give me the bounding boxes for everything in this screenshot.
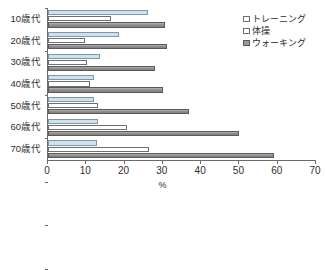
x-axis-tick <box>200 160 201 164</box>
x-axis-line <box>47 160 315 161</box>
y-axis-label: 50歳代 <box>0 101 41 111</box>
x-axis-tick-label: 20 <box>111 165 137 176</box>
y-axis-tick <box>45 225 49 226</box>
legend-label-gymnastics: 体操 <box>252 26 270 36</box>
bar-walking <box>48 131 239 136</box>
bar-group <box>48 73 315 95</box>
bar-walking <box>48 153 274 158</box>
bar-training <box>48 32 119 37</box>
bar-walking <box>48 87 163 92</box>
x-axis-tick <box>124 160 125 164</box>
bar-group <box>48 51 315 73</box>
x-axis-tick-label: 30 <box>149 165 175 176</box>
y-axis-category-labels: 10歳代20歳代30歳代40歳代50歳代60歳代70歳代 <box>0 8 44 160</box>
chart-legend: トレーニング 体操 ウォーキング <box>243 13 306 49</box>
legend-item-training: トレーニング <box>243 13 306 25</box>
y-axis-label: 20歳代 <box>0 36 41 46</box>
bar-gymnastics <box>48 147 149 152</box>
bar-training <box>48 119 98 124</box>
bar-group <box>48 138 315 160</box>
x-axis-tick-label: 60 <box>264 165 290 176</box>
legend-item-gymnastics: 体操 <box>243 25 306 37</box>
legend-item-walking: ウォーキング <box>243 37 306 49</box>
bar-group <box>48 117 315 139</box>
x-axis-tick-label: 40 <box>187 165 213 176</box>
legend-label-training: トレーニング <box>252 14 306 24</box>
bar-walking <box>48 22 165 27</box>
bar-group <box>48 95 315 117</box>
x-axis-tick <box>47 160 48 164</box>
y-axis-label: 10歳代 <box>0 14 41 24</box>
bar-gymnastics <box>48 125 127 130</box>
bar-walking <box>48 109 189 114</box>
x-axis-tick <box>238 160 239 164</box>
bar-training <box>48 10 148 15</box>
y-axis-tick <box>45 8 49 9</box>
bar-training <box>48 140 97 145</box>
x-axis-tick-label: 50 <box>225 165 251 176</box>
legend-swatch-walking-icon <box>243 40 250 47</box>
legend-label-walking: ウォーキング <box>252 38 306 48</box>
y-axis-label: 30歳代 <box>0 57 41 67</box>
bar-walking <box>48 44 167 49</box>
y-axis-label: 70歳代 <box>0 144 41 154</box>
x-axis-tick <box>315 160 316 164</box>
legend-swatch-gymnastics-icon <box>243 28 250 35</box>
y-axis-label: 60歳代 <box>0 122 41 132</box>
bar-walking <box>48 66 155 71</box>
bar-gymnastics <box>48 60 87 65</box>
bar-training <box>48 75 94 80</box>
legend-swatch-training-icon <box>243 16 250 23</box>
x-axis-tick-label: 70 <box>302 165 325 176</box>
x-axis-tick <box>162 160 163 164</box>
bar-training <box>48 54 100 59</box>
x-axis-tick <box>85 160 86 164</box>
x-axis-title: % <box>0 180 325 190</box>
y-axis-tick <box>45 269 49 270</box>
bar-training <box>48 97 94 102</box>
bar-gymnastics <box>48 38 85 43</box>
bar-gymnastics <box>48 16 111 21</box>
bar-gymnastics <box>48 103 98 108</box>
x-axis-tick-label: 10 <box>72 165 98 176</box>
x-axis-tick-label: 0 <box>34 165 60 176</box>
x-axis-tick <box>277 160 278 164</box>
y-axis-label: 40歳代 <box>0 79 41 89</box>
bar-gymnastics <box>48 81 90 86</box>
